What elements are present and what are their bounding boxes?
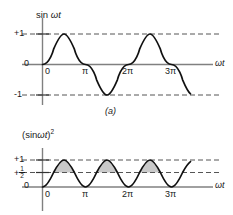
- y-tick-label-bottom-1: +12: [14, 166, 25, 181]
- sin-plot-svg: [0, 0, 233, 105]
- sin-squared-plot-svg: [0, 126, 233, 215]
- x-tick-label-bottom-2: 2π: [122, 190, 133, 199]
- y-tick-label-top-0: +1: [14, 29, 24, 38]
- y-axis-title-top: sin ωt: [36, 10, 61, 20]
- y-tick-label-bottom-2: 0: [24, 181, 29, 190]
- x-tick-label-bottom-1: π: [82, 190, 88, 199]
- shaded-area-group: [54, 160, 161, 173]
- y-axis-title-top-func: sin: [36, 9, 48, 20]
- y-tick-label-top-2: -1: [14, 90, 22, 99]
- x-tick-label-bottom-0: 0: [45, 190, 50, 199]
- x-tick-label-top-0: 0: [45, 67, 50, 76]
- x-tick-label-bottom-3: 3π: [165, 190, 176, 199]
- x-tick-label-top-2: 2π: [122, 67, 133, 76]
- x-axis-name-top: ωt: [215, 59, 225, 68]
- figure-container: sin ωt +1 0 -1 0 π 2π 3π ωt: [0, 0, 233, 215]
- x-tick-label-top-3: 3π: [165, 67, 176, 76]
- y-tick-label-bottom-0: +1: [14, 155, 24, 164]
- y-tick-label-top-1: 0: [24, 59, 29, 68]
- x-axis-name-bottom: ωt: [215, 181, 225, 190]
- x-tick-label-top-1: π: [82, 67, 88, 76]
- chart-panel-sin-squared: (sinωt)2 +1 +12 0: [0, 126, 233, 215]
- chart-panel-sin: sin ωt +1 0 -1 0 π 2π 3π ωt: [0, 0, 233, 105]
- y-axis-title-top-variable: ωt: [51, 9, 61, 20]
- figure-caption-a: (a): [105, 106, 116, 116]
